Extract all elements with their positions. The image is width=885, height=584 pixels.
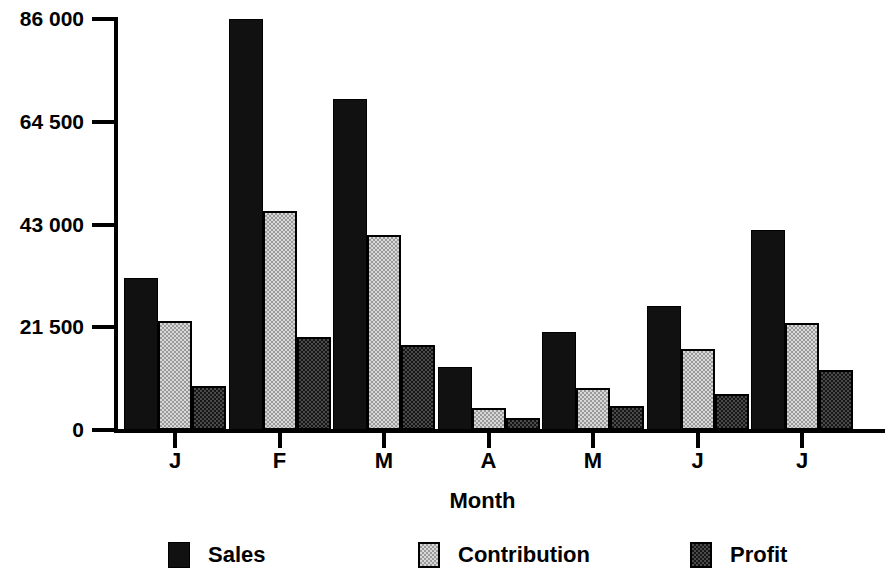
bar-profit-february xyxy=(297,337,331,430)
bar-contribution-may xyxy=(576,388,610,430)
bar-sales-may xyxy=(542,332,576,430)
x-axis-tick-label-january: J xyxy=(145,449,205,473)
bar-chart: 86 00064 50043 00021 5000 JFMAMJJ Month … xyxy=(0,0,885,584)
legend-swatch-profit-icon xyxy=(690,542,712,568)
y-axis-tick xyxy=(92,17,116,21)
bar-contribution-april xyxy=(472,408,506,430)
bar-sales-march xyxy=(333,99,367,430)
x-axis-tick xyxy=(696,433,700,448)
x-axis-tick-label-june: J xyxy=(668,449,728,473)
x-axis-line xyxy=(114,429,885,433)
bar-sales-june xyxy=(647,306,681,430)
y-axis-tick xyxy=(92,120,116,124)
x-axis-tick xyxy=(173,433,177,448)
bar-contribution-february xyxy=(263,211,297,430)
legend-label-sales: Sales xyxy=(208,542,266,568)
bar-sales-january xyxy=(124,278,158,430)
bar-profit-march xyxy=(401,345,435,430)
bar-profit-july xyxy=(819,370,853,430)
bar-contribution-june xyxy=(681,349,715,430)
bar-profit-june xyxy=(715,394,749,430)
bar-contribution-july xyxy=(785,323,819,430)
y-axis-tick-label: 64 500 xyxy=(20,111,84,132)
x-axis-tick xyxy=(278,433,282,448)
x-axis-tick-label-may: M xyxy=(563,449,623,473)
chart-legend: SalesContributionProfit xyxy=(0,539,885,579)
bar-sales-february xyxy=(229,19,263,430)
y-axis-tick-label: 86 000 xyxy=(20,8,84,29)
bar-contribution-january xyxy=(158,321,192,430)
x-axis-tick xyxy=(591,433,595,448)
legend-label-contribution: Contribution xyxy=(458,542,590,568)
legend-swatch-sales-icon xyxy=(168,542,190,568)
x-axis-tick-label-march: M xyxy=(354,449,414,473)
y-axis-tick-label: 43 000 xyxy=(20,214,84,235)
x-axis-title: Month xyxy=(0,488,885,514)
bar-profit-may xyxy=(610,406,644,430)
y-axis-tick xyxy=(92,223,116,227)
legend-item-sales[interactable]: Sales xyxy=(168,539,266,571)
y-axis-tick-label: 21 500 xyxy=(20,316,84,337)
x-axis-title-text: Month xyxy=(450,488,516,514)
bar-sales-july xyxy=(751,230,785,430)
legend-item-profit[interactable]: Profit xyxy=(690,539,787,571)
legend-item-contribution[interactable]: Contribution xyxy=(418,539,590,571)
x-axis-tick-label-april: A xyxy=(459,449,519,473)
y-axis-tick xyxy=(92,325,116,329)
legend-label-profit: Profit xyxy=(730,542,787,568)
bar-sales-april xyxy=(438,367,472,430)
bar-contribution-march xyxy=(367,235,401,430)
x-axis-tick-label-july: J xyxy=(772,449,832,473)
x-axis-tick xyxy=(382,433,386,448)
bar-profit-january xyxy=(192,386,226,430)
x-axis-tick-label-february: F xyxy=(250,449,310,473)
legend-swatch-contribution-icon xyxy=(418,542,440,568)
x-axis-tick xyxy=(800,433,804,448)
y-axis-tick xyxy=(92,428,116,432)
y-axis-tick-label: 0 xyxy=(72,419,84,440)
x-axis-tick xyxy=(487,433,491,448)
